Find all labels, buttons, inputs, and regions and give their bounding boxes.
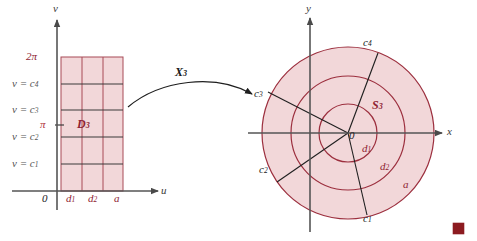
uv-region-rect: [61, 57, 123, 191]
figure-canvas: v u 0 D3 2π v = c4 v = c3 π v = c2 v = c…: [0, 0, 477, 241]
ytick-c4: v = c4: [12, 77, 38, 89]
circle-label-d1: d1: [362, 142, 371, 154]
xtick-d2: d2: [88, 192, 97, 204]
map-arrow-group: [128, 82, 252, 107]
xtick-d1: d1: [66, 192, 75, 204]
circle-label-a: a: [403, 178, 409, 190]
left-axis-y-label: v: [53, 2, 58, 14]
ytick-2pi: 2π: [26, 50, 37, 62]
ytick-c1: v = c1: [12, 157, 38, 169]
region-label-s3: S3: [372, 98, 383, 113]
ytick-c3: v = c3: [12, 103, 38, 115]
circle-label-d2: d2: [380, 160, 389, 172]
ray-label-c2: c2: [259, 163, 268, 175]
left-origin-label: 0: [42, 192, 48, 204]
xtick-a: a: [114, 192, 120, 204]
left-plot-group: [12, 20, 158, 210]
map-arrow-curve: [128, 82, 252, 107]
ray-label-c1: c1: [363, 212, 372, 224]
page-marker: [452, 222, 465, 235]
right-axis-y-label: y: [306, 2, 311, 14]
ytick-c2: v = c2: [12, 130, 38, 142]
ray-label-c3: c3: [254, 87, 263, 99]
right-origin-label: 0: [349, 129, 355, 141]
region-label-d3: D3: [77, 117, 90, 132]
left-axis-x-label: u: [161, 184, 167, 196]
right-plot-group: [248, 18, 442, 232]
page-marker-group: [452, 222, 465, 235]
figure-svg: [0, 0, 477, 241]
ytick-pi: π: [40, 118, 46, 130]
map-arrow-label: X3: [175, 65, 187, 80]
right-axis-x-label: x: [447, 125, 452, 137]
ray-label-c4: c4: [363, 36, 372, 48]
